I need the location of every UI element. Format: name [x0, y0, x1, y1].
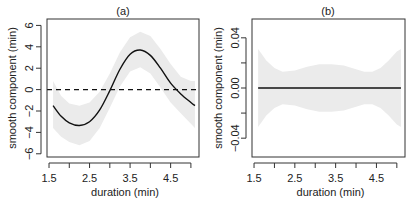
x-tick-label: 1.5 — [246, 172, 261, 184]
x-tick-label: 1.5 — [41, 172, 56, 184]
x-tick-label: 3.5 — [122, 172, 137, 184]
y-tick-label: 0 — [23, 87, 35, 93]
confidence-band-a — [53, 32, 195, 145]
y-tick-label: 2 — [23, 65, 35, 71]
x-tick-label: 2.5 — [287, 172, 302, 184]
panel-title-b: (b) — [321, 5, 334, 17]
y-tick-label: −0.04 — [229, 124, 241, 152]
figure: 1.52.53.54.5 −6−4−20246 (a) duration (mi… — [0, 0, 417, 203]
x-tick-label: 2.5 — [82, 172, 97, 184]
y-tick-label: 0.00 — [229, 77, 241, 98]
panel-b: 1.52.53.54.5 −0.040.000.04 (b) duration … — [212, 5, 405, 198]
x-axis-b: 1.52.53.54.5 — [246, 163, 396, 184]
y-tick-label: 6 — [23, 22, 35, 28]
x-tick-label: 3.5 — [328, 172, 343, 184]
y-tick-label: −2 — [23, 105, 35, 118]
x-axis-a: 1.52.53.54.5 — [41, 163, 191, 184]
y-tick-label: 4 — [23, 44, 35, 50]
y-axis-a: −6−4−20246 — [23, 22, 41, 160]
x-axis-label-a: duration (min) — [91, 186, 159, 198]
y-axis-label-b: smooth component (min) — [212, 27, 224, 149]
x-axis-label-b: duration (min) — [297, 186, 365, 198]
panel-a: 1.52.53.54.5 −6−4−20246 (a) duration (mi… — [6, 5, 199, 198]
x-tick-label: 4.5 — [369, 172, 384, 184]
panel-title-a: (a) — [116, 5, 129, 17]
y-axis-label-a: smooth component (min) — [6, 27, 18, 149]
y-tick-label: 0.04 — [229, 27, 241, 48]
x-tick-label: 4.5 — [163, 172, 178, 184]
y-tick-label: −4 — [23, 126, 35, 139]
y-axis-b: −0.040.000.04 — [229, 27, 246, 152]
y-tick-label: −6 — [23, 148, 35, 161]
